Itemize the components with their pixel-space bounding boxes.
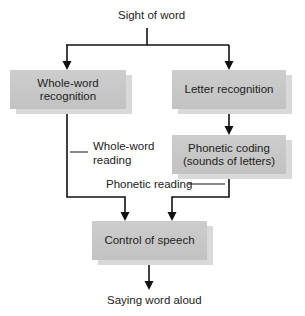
phonetic-reading-label: Phonetic reading: [106, 177, 192, 191]
control-of-speech-box: Control of speech: [92, 221, 207, 260]
reading-pathways-diagram: Sight of word Whole-word recognition Let…: [0, 0, 305, 316]
letter-recognition-box: Letter recognition: [172, 70, 286, 109]
whole-word-reading-line1: Whole-word: [93, 139, 154, 153]
whole-word-reading-label: Whole-word reading: [93, 139, 154, 167]
letter-recognition-label: Letter recognition: [185, 83, 274, 96]
sight-of-word-label: Sight of word: [118, 8, 185, 22]
whole-word-recognition-box: Whole-word recognition: [10, 70, 126, 109]
whole-word-reading-line2: reading: [93, 153, 154, 167]
control-of-speech-label: Control of speech: [104, 234, 194, 247]
saying-word-aloud-label: Saying word aloud: [107, 293, 202, 307]
phonetic-coding-label-line2: (sounds of letters): [183, 155, 275, 168]
whole-word-recognition-label: Whole-word recognition: [14, 77, 122, 103]
phonetic-coding-label-line1: Phonetic coding: [188, 142, 270, 155]
phonetic-coding-box: Phonetic coding (sounds of letters): [172, 135, 286, 174]
